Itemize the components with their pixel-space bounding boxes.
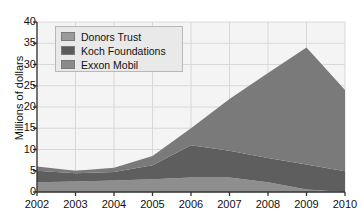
x-tick-label: 2008 (250, 199, 286, 210)
x-tick-label: 2004 (96, 199, 132, 210)
legend-item-koch-foundations: Koch Foundations (61, 44, 177, 57)
legend-swatch-koch-foundations (61, 46, 75, 55)
y-axis-label: Millions of dollars (13, 33, 25, 163)
legend-item-donors-trust: Donors Trust (61, 30, 177, 43)
x-tick-label: 2009 (289, 199, 325, 210)
x-tick-label: 2006 (173, 199, 209, 210)
x-tick-label: 2003 (58, 199, 94, 210)
x-tick-label: 2007 (212, 199, 248, 210)
x-tick-label: 2005 (135, 199, 171, 210)
chart-legend: Donors Trust Koch Foundations Exxon Mobi… (55, 26, 183, 72)
legend-label-exxon-mobil: Exxon Mobil (81, 59, 138, 71)
legend-swatch-donors-trust (61, 32, 75, 41)
legend-label-koch-foundations: Koch Foundations (81, 45, 166, 57)
legend-label-donors-trust: Donors Trust (81, 31, 141, 43)
x-tick-label: 2010 (327, 199, 362, 210)
legend-item-exxon-mobil: Exxon Mobil (61, 58, 177, 71)
stacked-area-chart: 0510152025303540 20022003200420052006200… (0, 0, 362, 223)
legend-swatch-exxon-mobil (61, 60, 75, 69)
x-tick-label: 2002 (19, 199, 55, 210)
